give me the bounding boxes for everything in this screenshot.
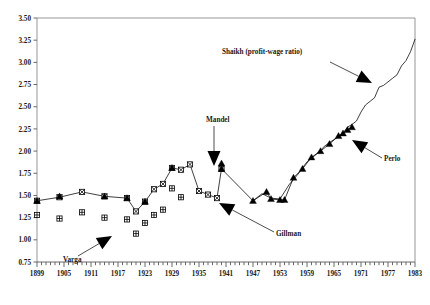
y-tick-label: 1.75 (18, 170, 31, 178)
x-tick-label: 1905 (57, 270, 72, 278)
x-tick-label: 1941 (219, 270, 234, 278)
x-tick-label: 1935 (192, 270, 207, 278)
y-tick-label: 1.25 (18, 214, 31, 222)
profit-rate-line-chart: 3.503.253.002.752.502.252.001.751.501.25… (0, 0, 430, 305)
y-tick-label: 1.00 (18, 236, 31, 244)
annotation-label: Gillman (276, 230, 301, 238)
y-tick-label: 3.00 (18, 59, 31, 67)
x-tick-label: 1923 (138, 270, 153, 278)
annotation-label: Varga (63, 256, 82, 264)
y-tick-label: 3.25 (18, 37, 31, 45)
y-tick-label: 3.50 (18, 15, 31, 23)
y-tick-label: 2.50 (18, 103, 31, 111)
x-tick-label: 1947 (246, 270, 261, 278)
y-tick-label: 2.75 (18, 81, 31, 89)
y-tick-label: 1.50 (18, 192, 31, 200)
annotation-label: Perlo (384, 155, 401, 163)
x-tick-label: 1959 (300, 270, 315, 278)
x-tick-label: 1929 (165, 270, 180, 278)
x-tick-label: 1953 (273, 270, 288, 278)
x-tick-label: 1977 (381, 270, 396, 278)
x-tick-label: 1983 (408, 270, 423, 278)
x-tick-label: 1899 (30, 270, 45, 278)
x-tick-label: 1917 (111, 270, 126, 278)
annotation-label: Mandel (206, 116, 230, 124)
y-tick-label: 2.00 (18, 148, 31, 156)
x-tick-label: 1965 (327, 270, 342, 278)
chart-root: 3.503.253.002.752.502.252.001.751.501.25… (0, 0, 430, 305)
x-tick-label: 1971 (354, 270, 369, 278)
y-tick-label: 2.25 (18, 126, 31, 134)
annotation-label: Shaikh (profit-wage ratio) (222, 48, 303, 56)
x-tick-label: 1911 (84, 270, 98, 278)
y-tick-label: 0.75 (18, 259, 31, 267)
